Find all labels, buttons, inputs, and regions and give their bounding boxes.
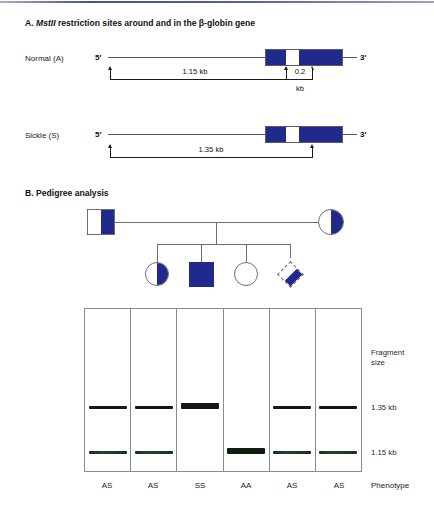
normal-exon-right	[299, 50, 342, 65]
figure-root: A. MstII restriction sites around and in…	[0, 0, 434, 516]
gel-lane	[224, 309, 270, 471]
band-1-15kb	[273, 451, 311, 454]
sickle-exon-left	[266, 127, 286, 142]
top-rule-divider	[0, 1, 434, 3]
mother-half-fill	[331, 210, 343, 234]
band-1-35kb	[135, 406, 173, 409]
sickle-dna-backbone	[108, 134, 265, 135]
lane-phenotype-label: SS	[177, 481, 223, 490]
pedigree-sibship-bar	[157, 244, 290, 245]
gel-lane	[177, 309, 223, 471]
sickle-three-prime-label: 3′	[360, 130, 366, 139]
band-1-35kb	[89, 406, 127, 409]
gel-lane	[270, 309, 316, 471]
lane-phenotype-label: AS	[269, 481, 315, 490]
pedigree-child-3-circle	[234, 262, 258, 286]
sickle-dna-backbone-right	[343, 134, 357, 135]
child-1-half-fill	[157, 263, 168, 285]
panel-a-heading: A. MstII restriction sites around and in…	[25, 18, 255, 28]
normal-exon-left	[266, 50, 286, 65]
lane-phenotype-label: AA	[223, 481, 269, 490]
panel-a-heading-rest: restriction sites around and in the β-gl…	[56, 18, 256, 28]
panel-a-heading-prefix: A.	[25, 18, 36, 28]
band-1-15kb	[227, 448, 265, 454]
gel-lane	[85, 309, 131, 471]
fragment-size-label-line2: size	[371, 358, 385, 368]
father-half-fill	[101, 210, 114, 234]
band-1-15kb	[319, 451, 357, 454]
marker-label-1-35kb: 1.35 kb	[371, 403, 397, 413]
sickle-measure-135-tick-right	[312, 147, 313, 158]
normal-measure-115-tick-left	[110, 69, 111, 80]
sickle-exon-right	[299, 127, 342, 142]
pedigree-descent-line	[216, 222, 217, 244]
normal-measure-115-label: 1.15 kb	[165, 68, 225, 76]
normal-measure-02-base	[286, 79, 313, 80]
band-1-35kb	[273, 406, 311, 409]
normal-dna-backbone-right	[343, 57, 357, 58]
normal-intron	[286, 50, 300, 65]
panel-b-heading: B. Pedigree analysis	[25, 188, 109, 198]
pedigree-father-square	[87, 209, 115, 235]
pedigree-mother-circle	[318, 209, 344, 235]
sickle-measure-135-base	[110, 157, 313, 158]
fragment-size-label-line1: Fragment	[371, 348, 404, 358]
lane-phenotype-label: AS	[130, 481, 176, 490]
sickle-measure-135-label: 1.35 kb	[180, 146, 242, 154]
marker-label-1-15kb: 1.15 kb	[371, 448, 397, 458]
pedigree-drop-child-3	[246, 244, 247, 262]
band-1-35kb	[319, 406, 357, 409]
pedigree-drop-child-2	[201, 244, 202, 262]
sickle-measure-135-arrow-left	[108, 144, 112, 148]
band-1-35kb	[181, 403, 219, 409]
pedigree-child-1-circle	[145, 262, 169, 286]
pedigree-child-2-square	[189, 262, 214, 287]
pedigree-drop-fetus	[290, 244, 291, 258]
normal-allele-label: Normal (A)	[25, 54, 64, 63]
normal-dna-backbone	[108, 57, 265, 58]
pedigree-fetus-diamond	[281, 265, 300, 284]
normal-measure-02-tick-right	[312, 69, 313, 80]
pedigree-drop-child-1	[157, 244, 158, 262]
normal-gene-box	[265, 49, 343, 66]
fetus-diamond-shape	[277, 261, 304, 288]
sickle-allele-label: Sickle (S)	[25, 131, 59, 140]
normal-measure-02-unit: kb	[288, 85, 312, 93]
sickle-measure-135-tick-left	[110, 147, 111, 158]
band-1-15kb	[135, 451, 173, 454]
band-1-15kb	[89, 451, 127, 454]
lane-phenotype-label: AS	[84, 481, 130, 490]
phenotype-axis-label: Phenotype	[371, 481, 409, 490]
gel-electrophoresis	[84, 308, 362, 472]
normal-measure-115-arrow-left	[108, 66, 112, 70]
gel-lane	[131, 309, 177, 471]
panel-a-heading-enzyme: MstII	[36, 18, 56, 28]
normal-measure-02-label: 0.2	[288, 68, 312, 76]
fetus-half-fill	[284, 268, 302, 286]
normal-five-prime-label: 5′	[95, 53, 101, 62]
sickle-intron	[286, 127, 300, 142]
gel-lane	[316, 309, 361, 471]
sickle-gene-box	[265, 126, 343, 143]
lane-phenotype-label: AS	[316, 481, 362, 490]
sickle-five-prime-label: 5′	[95, 130, 101, 139]
sickle-measure-135-arrow-right	[310, 144, 314, 148]
normal-measure-115-base	[110, 79, 287, 80]
normal-three-prime-label: 3′	[360, 53, 366, 62]
